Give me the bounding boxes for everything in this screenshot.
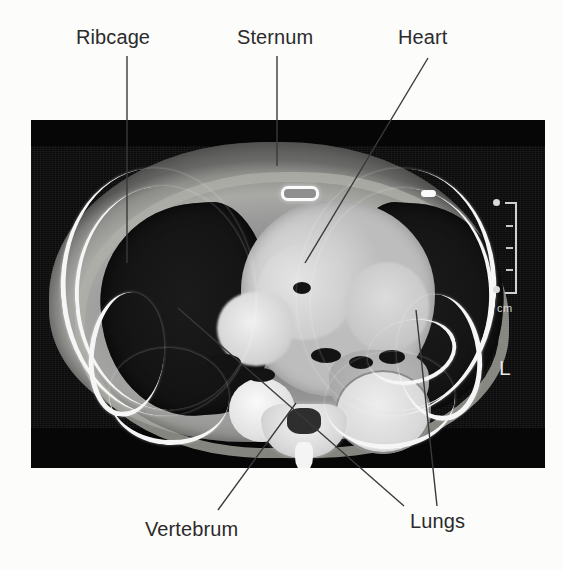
ruler-tick <box>506 225 513 227</box>
ruler-endpoint-dot <box>493 286 500 293</box>
ct-image-panel[interactable]: cm L <box>31 120 545 468</box>
spinal-canal <box>287 408 321 434</box>
scale-ruler <box>503 202 517 294</box>
spinous-process <box>295 442 313 468</box>
body-cross-section <box>49 142 499 442</box>
ruler-unit-label: cm <box>497 302 513 314</box>
label-vertebrum: Vertebrum <box>145 518 238 541</box>
left-side-marker: L <box>499 356 511 380</box>
label-heart: Heart <box>398 26 447 49</box>
air-pocket <box>247 368 275 382</box>
label-ribcage: Ribcage <box>76 26 150 49</box>
sternum-bone <box>281 186 319 201</box>
ruler-tick <box>506 269 513 271</box>
ruler-tick <box>506 247 513 249</box>
label-lungs: Lungs <box>410 510 465 533</box>
ruler-endpoint-dot <box>493 199 500 206</box>
annotated-ct-figure: cm L Ribcage Sternum Heart Vertebrum Lun… <box>0 0 563 570</box>
label-sternum: Sternum <box>237 26 313 49</box>
